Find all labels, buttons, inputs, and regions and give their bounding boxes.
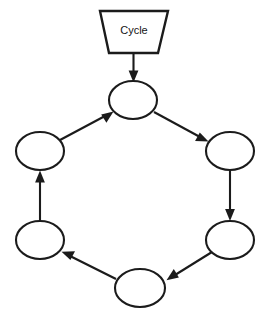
edge-lower-left-to-upper-left bbox=[35, 171, 45, 222]
cycle-diagram-canvas: Cycle bbox=[0, 0, 268, 317]
node-top[interactable] bbox=[109, 81, 157, 119]
arrowhead-upper-right-lower-right bbox=[225, 209, 235, 221]
cycle-start-shape[interactable]: Cycle bbox=[100, 11, 168, 53]
arrowhead-lower-left-upper-left bbox=[35, 171, 45, 183]
node-upper-left[interactable] bbox=[16, 132, 64, 170]
edge-line-top-upper-right bbox=[154, 112, 200, 137]
edge-bottom-to-lower-left bbox=[62, 251, 117, 279]
diagram-svg: Cycle bbox=[0, 0, 268, 317]
edge-start-to-top-node bbox=[129, 53, 139, 83]
node-lower-right[interactable] bbox=[206, 221, 254, 259]
arrowhead-lower-right-bottom bbox=[167, 269, 179, 280]
node-lower-left[interactable] bbox=[16, 221, 64, 259]
edge-lower-right-to-bottom bbox=[167, 252, 213, 280]
node-bottom[interactable] bbox=[115, 269, 165, 307]
edge-line-bottom-lower-left bbox=[70, 256, 116, 279]
edge-upper-left-to-top bbox=[60, 111, 114, 140]
edge-line-upper-left-top bbox=[60, 116, 105, 140]
arrowhead-upper-left-top bbox=[101, 111, 113, 122]
node-upper-right[interactable] bbox=[206, 132, 254, 170]
edge-top-to-upper-right bbox=[154, 112, 209, 142]
arrowhead-bottom-lower-left bbox=[62, 251, 76, 260]
cycle-start-label: Cycle bbox=[120, 24, 148, 36]
edge-line-lower-right-bottom bbox=[175, 252, 212, 275]
edge-upper-right-to-lower-right bbox=[225, 170, 235, 221]
arrowhead-top-upper-right bbox=[195, 132, 208, 141]
